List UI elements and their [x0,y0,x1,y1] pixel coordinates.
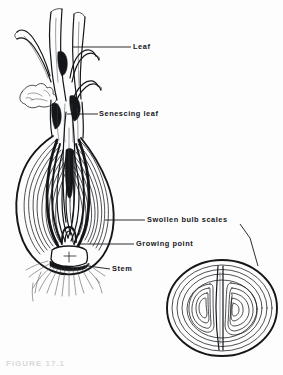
label-senescing-leaf: Senescing leaf [99,110,158,117]
foliage-leaves-group [15,9,102,142]
onion-bulb-diagram: .ink{fill:none;stroke:#14161a;stroke-lin… [0,0,283,375]
figure-root: .ink{fill:none;stroke:#14161a;stroke-lin… [0,0,283,375]
label-leaf: Leaf [133,43,150,50]
label-swollen-bulb-scales: Swollen bulb scales [147,216,228,223]
figure-caption: FIGURE 17.1 [6,360,65,368]
label-stem: Stem [112,265,132,272]
bulb-cross-section [167,260,277,356]
leader-line-cross-section [240,224,258,266]
label-growing-point: Growing point [136,240,193,247]
